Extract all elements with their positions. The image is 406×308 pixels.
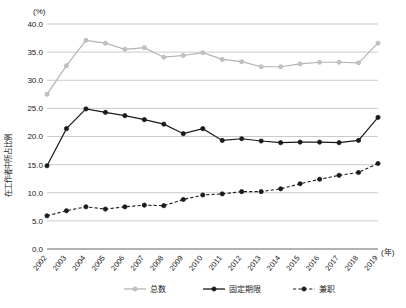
y-tick-label: 25.0: [27, 104, 43, 113]
y-tick-label: 0.0: [32, 245, 44, 254]
data-point: [240, 60, 244, 64]
y-axis-title: 在工作者中所占比例: [3, 134, 13, 197]
data-point: [279, 187, 283, 191]
data-point: [376, 41, 380, 45]
data-point: [337, 173, 341, 177]
data-point: [123, 114, 127, 118]
legend-marker-2: [212, 287, 216, 291]
y-tick-label: 40.0: [27, 20, 43, 29]
data-point: [45, 214, 49, 218]
y-tick-label: 5.0: [32, 217, 44, 226]
data-point: [318, 60, 322, 64]
data-point: [64, 64, 68, 68]
data-point: [45, 164, 49, 168]
chart-container: (%) 0.05.010.015.020.025.030.035.040.0 2…: [0, 0, 406, 308]
data-point: [123, 47, 127, 51]
legend-label-3: 兼职: [319, 284, 335, 294]
data-point: [162, 204, 166, 208]
data-point: [64, 209, 68, 213]
data-point: [298, 140, 302, 144]
line-chart: (%) 0.05.010.015.020.025.030.035.040.0 2…: [0, 0, 406, 308]
y-tick-label: 15.0: [27, 161, 43, 170]
y-tick-label: 30.0: [27, 76, 43, 85]
data-point: [142, 118, 146, 122]
data-point: [64, 127, 68, 131]
legend-label-2: 固定期限: [229, 284, 261, 294]
y-tick-label: 10.0: [27, 189, 43, 198]
data-point: [84, 38, 88, 42]
data-point: [142, 46, 146, 50]
data-point: [123, 205, 127, 209]
legend-marker-1: [133, 287, 137, 291]
data-point: [84, 107, 88, 111]
data-point: [357, 61, 361, 65]
data-point: [298, 182, 302, 186]
data-point: [84, 205, 88, 209]
data-point: [220, 192, 224, 196]
data-point: [201, 51, 205, 55]
y-tick-label: 20.0: [27, 132, 43, 141]
legend-label-1: 总数: [150, 284, 166, 294]
y-tick-label: 35.0: [27, 48, 43, 57]
data-point: [317, 140, 321, 144]
data-point: [317, 177, 321, 181]
data-point: [376, 115, 380, 119]
data-point: [103, 207, 107, 211]
data-point: [181, 197, 185, 201]
data-point: [259, 190, 263, 194]
data-point: [337, 60, 341, 64]
data-point: [220, 57, 224, 61]
data-point: [181, 54, 185, 58]
data-point: [259, 65, 263, 69]
data-point: [279, 141, 283, 145]
data-point: [376, 161, 380, 165]
legend-marker-3: [302, 287, 306, 291]
data-point: [181, 132, 185, 136]
data-point: [201, 193, 205, 197]
data-point: [356, 138, 360, 142]
data-point: [259, 139, 263, 143]
data-point: [103, 110, 107, 114]
data-point: [298, 62, 302, 66]
data-point: [103, 41, 107, 45]
data-point: [45, 92, 49, 96]
data-point: [162, 122, 166, 126]
data-point: [356, 170, 360, 174]
data-point: [220, 138, 224, 142]
data-point: [240, 190, 244, 194]
x-axis-unit-label: (年): [381, 247, 395, 257]
data-point: [201, 127, 205, 131]
data-point: [240, 137, 244, 141]
data-point: [337, 141, 341, 145]
data-point: [142, 203, 146, 207]
data-point: [279, 65, 283, 69]
data-point: [162, 55, 166, 59]
y-axis-unit-label: (%): [33, 7, 46, 16]
